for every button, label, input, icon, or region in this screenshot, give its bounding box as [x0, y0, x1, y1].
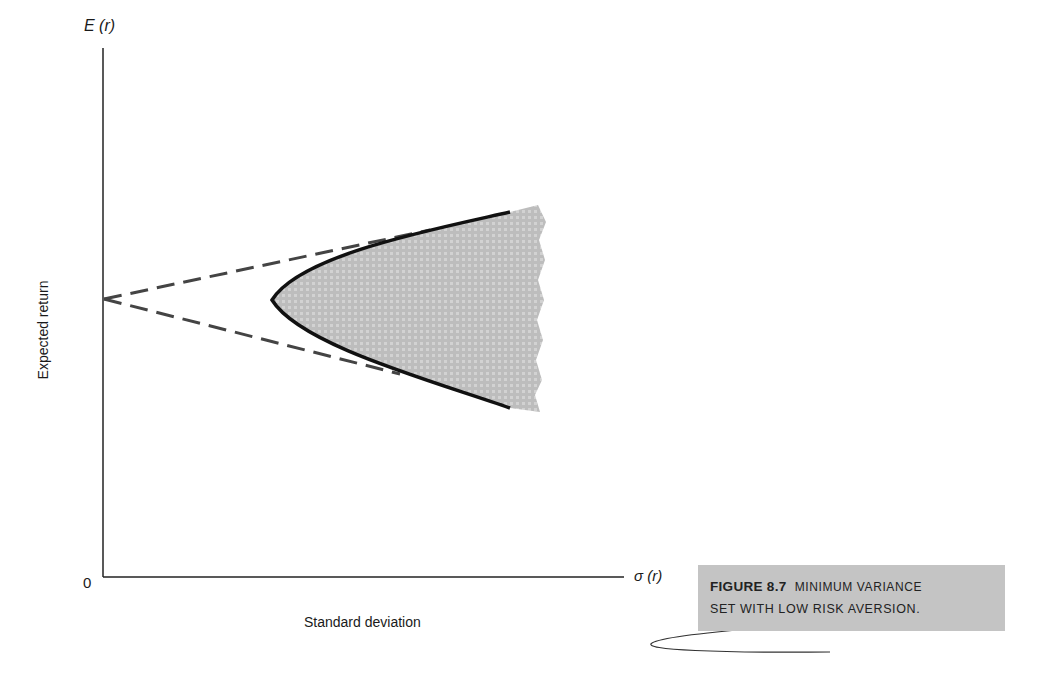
origin-label: 0: [83, 574, 91, 591]
caption-line2: SET WITH LOW RISK AVERSION.: [710, 598, 1005, 620]
x-axis-label: Standard deviation: [304, 614, 421, 630]
figure-number: FIGURE 8.7: [710, 579, 787, 594]
figure-caption: FIGURE 8.7 Minimum variance SET WITH LOW…: [698, 565, 1005, 631]
y-axis-label: Expected return: [35, 281, 51, 380]
caption-line1: Minimum variance: [795, 580, 922, 594]
x-axis-end-label: σ (r): [634, 567, 662, 584]
y-axis-top-label: E (r): [84, 17, 115, 35]
